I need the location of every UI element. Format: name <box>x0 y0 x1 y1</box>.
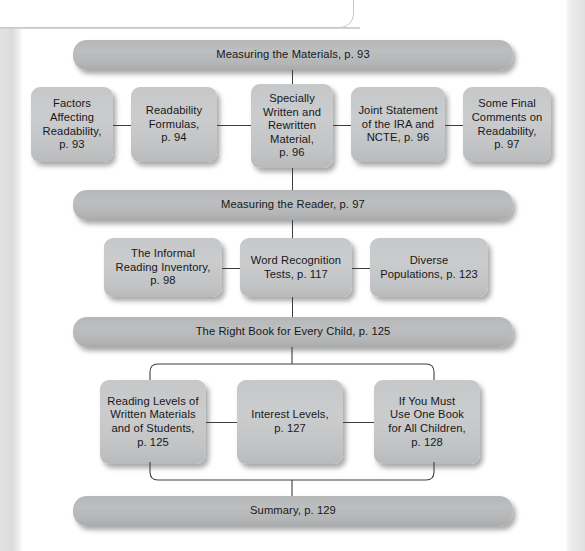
connector-joint-to-final <box>445 125 463 126</box>
node-the-right-book-for-every-child[interactable]: The Right Book for Every Child, p. 125 <box>73 317 513 347</box>
node-the-informal-reading-inventory[interactable]: The Informal Reading Inventory, p. 98 <box>104 238 222 297</box>
connector-word-recognition-to-diverse <box>352 268 370 269</box>
connector-reading-levels-to-interest-levels <box>206 422 237 423</box>
connector-factors-to-formulas <box>113 125 131 126</box>
node-summary[interactable]: Summary, p. 129 <box>73 496 513 526</box>
node-word-recognition-tests[interactable]: Word Recognition Tests, p. 117 <box>240 238 352 297</box>
top-callout-outline <box>0 0 354 28</box>
node-joint-statement-ira-ncte[interactable]: Joint Statement of the IRA and NCTE, p. … <box>351 87 445 162</box>
connector-specially-to-reader <box>292 168 293 190</box>
node-factors-affecting-readability[interactable]: Factors Affecting Readability, p. 93 <box>31 87 113 162</box>
node-interest-levels[interactable]: Interest Levels, p. 127 <box>237 380 343 464</box>
page-right-gutter <box>566 0 585 551</box>
page-left-gutter <box>0 0 22 551</box>
connector-word-recognition-to-right-book <box>292 297 293 318</box>
node-some-final-comments-on-readability[interactable]: Some Final Comments on Readability, p. 9… <box>463 87 551 162</box>
node-reading-levels-of-written-materials[interactable]: Reading Levels of Written Materials and … <box>100 380 206 464</box>
node-readability-formulas[interactable]: Readability Formulas, p. 94 <box>131 87 217 162</box>
node-measuring-the-materials[interactable]: Measuring the Materials, p. 93 <box>73 40 513 70</box>
diagram-page: Measuring the Materials, p. 93 Factors A… <box>0 0 585 551</box>
connector-formulas-to-specially <box>217 125 251 126</box>
node-diverse-populations[interactable]: Diverse Populations, p. 123 <box>370 238 488 297</box>
connector-interest-levels-to-if-you-must <box>343 422 374 423</box>
connector-specially-to-joint <box>333 125 351 126</box>
node-specially-written-and-rewritten-material[interactable]: Specially Written and Rewritten Material… <box>251 84 333 168</box>
node-measuring-the-reader[interactable]: Measuring the Reader, p. 97 <box>73 190 513 220</box>
node-if-you-must-use-one-book[interactable]: If You Must Use One Book for All Childre… <box>374 380 480 464</box>
connector-informal-to-word-recognition <box>222 268 240 269</box>
